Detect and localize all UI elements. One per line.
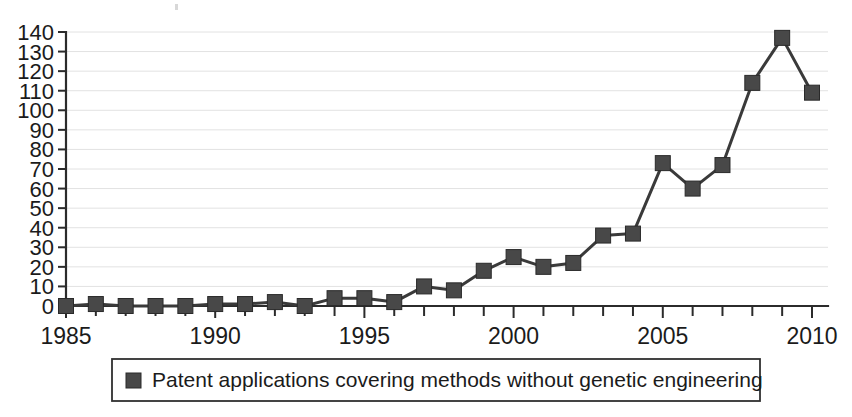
legend-label-0: Patent applications covering methods wit…: [152, 368, 763, 391]
data-point-marker: [148, 299, 163, 314]
data-point-marker: [267, 295, 282, 310]
data-point-marker: [476, 263, 491, 278]
legend: Patent applications covering methods wit…: [112, 359, 763, 401]
data-point-marker: [208, 297, 223, 312]
data-point-marker: [745, 75, 760, 90]
legend-swatch-icon: [126, 373, 141, 388]
y-tick-label: 140: [17, 20, 54, 45]
data-point-marker: [566, 255, 581, 270]
data-point-marker: [655, 156, 670, 171]
data-point-marker: [417, 279, 432, 294]
data-point-marker: [357, 291, 372, 306]
scan-artifact: [175, 4, 178, 10]
data-point-marker: [387, 295, 402, 310]
data-point-marker: [59, 299, 74, 314]
data-point-marker: [238, 297, 253, 312]
series-line: [66, 38, 812, 306]
data-point-marker: [596, 228, 611, 243]
data-point-marker: [327, 291, 342, 306]
data-point-marker: [297, 299, 312, 314]
y-axis-ticks: 0102030405060708090100110120130140: [17, 20, 66, 319]
x-tick-label: 2005: [637, 323, 688, 349]
data-point-marker: [536, 259, 551, 274]
data-point-marker: [775, 30, 790, 45]
data-point-marker: [625, 226, 640, 241]
data-point-marker: [178, 299, 193, 314]
line-chart: 0102030405060708090100110120130140 19851…: [0, 0, 852, 417]
data-series: [59, 30, 820, 313]
x-tick-label: 1990: [190, 323, 241, 349]
data-point-marker: [685, 181, 700, 196]
data-point-marker: [506, 250, 521, 265]
data-point-marker: [446, 283, 461, 298]
x-tick-label: 1985: [40, 323, 91, 349]
gridlines: [67, 32, 828, 286]
data-point-marker: [118, 299, 133, 314]
x-tick-label: 1995: [339, 323, 390, 349]
data-point-marker: [715, 158, 730, 173]
chart-figure: 0102030405060708090100110120130140 19851…: [0, 0, 852, 417]
x-tick-label: 2010: [786, 323, 837, 349]
data-point-marker: [805, 85, 820, 100]
data-point-marker: [88, 297, 103, 312]
x-tick-label: 2000: [488, 323, 539, 349]
